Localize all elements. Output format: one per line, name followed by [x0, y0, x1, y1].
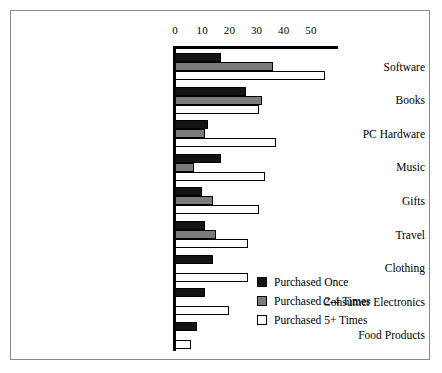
legend-label: Purchased Once [274, 276, 348, 288]
bar [175, 53, 221, 62]
bar [175, 163, 194, 172]
category-label-music: Music [279, 161, 431, 173]
legend-swatch-icon [257, 315, 267, 325]
bar [175, 288, 205, 297]
bar [175, 273, 248, 282]
bar [175, 322, 197, 331]
legend-label: Purchased 2-4 Times [274, 295, 370, 307]
category-label-books: Books [279, 94, 431, 106]
legend-swatch-icon [257, 277, 267, 287]
bar [175, 71, 325, 80]
bar [175, 187, 202, 196]
x-tick-label: 20 [217, 25, 241, 36]
bar [175, 120, 208, 129]
bar [175, 138, 276, 147]
chart-legend: Purchased OncePurchased 2-4 TimesPurchas… [257, 273, 422, 330]
category-label-travel: Travel [279, 229, 431, 241]
x-tick-label: 0 [163, 25, 187, 36]
bar [175, 172, 265, 181]
x-tick-label: 10 [190, 25, 214, 36]
x-tick-label: 50 [299, 25, 323, 36]
legend-label: Purchased 5+ Times [274, 314, 367, 326]
x-tick-label: 40 [272, 25, 296, 36]
bar [175, 105, 259, 114]
category-label-gifts: Gifts [279, 195, 431, 207]
bar [175, 205, 259, 214]
bar [175, 239, 248, 248]
bar [175, 87, 246, 96]
legend-item: Purchased 2-4 Times [257, 292, 422, 309]
chart-frame: 01020304050 SoftwareBooksPC HardwareMusi… [10, 10, 430, 360]
bar [175, 230, 216, 239]
x-axis-line [173, 46, 338, 49]
bar [175, 306, 229, 315]
legend-item: Purchased Once [257, 273, 422, 290]
category-label-food-products: Food Products [279, 329, 431, 341]
bar [175, 154, 221, 163]
bar [175, 62, 273, 71]
bar [175, 221, 205, 230]
legend-swatch-icon [257, 296, 267, 306]
category-label-pc-hardware: PC Hardware [279, 128, 431, 140]
chart-plot-area: 01020304050 SoftwareBooksPC HardwareMusi… [11, 11, 431, 361]
bar [175, 196, 213, 205]
x-tick-label: 30 [245, 25, 269, 36]
bar [175, 129, 205, 138]
bar [175, 340, 191, 349]
legend-item: Purchased 5+ Times [257, 311, 422, 328]
bar [175, 96, 262, 105]
bar [175, 255, 213, 264]
